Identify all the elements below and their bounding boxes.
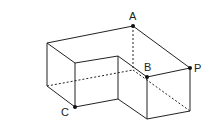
point-c [73,105,77,109]
point-p [188,66,192,70]
label-b: B [144,61,151,73]
diagram: A B P C [0,0,216,129]
point-a [131,24,135,28]
l-shaped-solid: A B P C [0,0,216,129]
label-p: P [194,62,201,74]
label-a: A [129,10,137,22]
label-c: C [61,106,69,118]
point-b [145,75,149,79]
